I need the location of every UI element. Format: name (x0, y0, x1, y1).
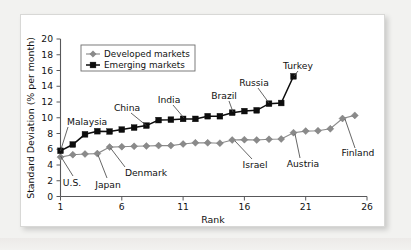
annotation-israel: Israel (242, 159, 267, 170)
dev-marker-4 (94, 150, 101, 157)
annotation-russia: Russia (239, 77, 269, 88)
y-axis-tick-labels: 0 2 4 6 8 10 12 14 16 18 20 (41, 33, 53, 202)
legend-label-emerging: Emerging markets (104, 60, 185, 70)
square-marker-icon (90, 62, 96, 68)
annotation-malaysia: Malaysia (67, 116, 107, 127)
annotation-denmark: Denmark (125, 167, 168, 178)
leader-denmark (111, 148, 126, 167)
page-shadow-strip (0, 238, 411, 250)
dev-marker-17 (253, 137, 260, 144)
dev-marker-10 (167, 142, 174, 149)
y-tick-label-8: 8 (47, 128, 53, 139)
emg-marker-3 (82, 131, 88, 137)
y-tick-label-10: 10 (41, 112, 53, 123)
dev-marker-2 (69, 151, 76, 158)
dev-marker-11 (180, 141, 187, 148)
emg-marker-10 (168, 117, 174, 123)
y-tick-label-18: 18 (41, 49, 53, 60)
y-tick-label-0: 0 (47, 191, 53, 202)
leader-china (131, 113, 146, 126)
dev-marker-8 (143, 143, 150, 150)
emg-marker-5 (107, 129, 113, 135)
annotation-japan: Japan (94, 179, 121, 190)
chart-legend: Developed markets Emerging markets (81, 45, 195, 71)
x-tick-label-11: 11 (177, 201, 189, 212)
emg-marker-9 (156, 117, 162, 123)
leader-russia (258, 88, 269, 103)
annotation-labels: Malaysia U.S. Japan Denmark China India … (63, 60, 375, 190)
dev-marker-6 (118, 143, 125, 150)
dev-marker-9 (155, 142, 162, 149)
emg-marker-14 (217, 113, 223, 119)
dev-marker-21 (302, 128, 309, 135)
y-tick-label-6: 6 (47, 143, 53, 154)
emg-marker-18 (266, 101, 272, 107)
dev-marker-13 (204, 139, 211, 146)
emg-marker-6 (119, 127, 125, 133)
y-axis-ticks (57, 39, 61, 197)
annotation-finland: Finland (342, 147, 375, 158)
emg-marker-4 (94, 128, 100, 134)
emg-marker-2 (70, 142, 76, 148)
emg-marker-16 (242, 108, 248, 114)
y-tick-label-16: 16 (41, 65, 53, 76)
standard-deviation-vs-rank-chart: 0 2 4 6 8 10 12 14 16 18 20 1 6 11 16 21 (21, 15, 384, 226)
annotation-china: China (114, 102, 140, 113)
x-tick-label-21: 21 (300, 201, 312, 212)
dev-marker-3 (82, 151, 89, 158)
y-tick-label-14: 14 (41, 80, 53, 91)
leader-india (173, 105, 184, 118)
dev-marker-22 (315, 127, 322, 134)
legend-label-developed: Developed markets (104, 49, 190, 59)
dev-marker-20 (290, 129, 297, 136)
emg-marker-19 (278, 100, 284, 106)
x-tick-label-6: 6 (119, 201, 125, 212)
x-axis-tick-labels: 1 6 11 16 21 26 (58, 201, 373, 212)
x-tick-label-16: 16 (239, 201, 251, 212)
x-axis-ticks (61, 197, 368, 201)
dev-marker-25 (351, 112, 358, 119)
dev-marker-18 (266, 136, 273, 143)
dev-marker-7 (131, 143, 138, 150)
leader-austria (295, 134, 300, 158)
annotation-brazil: Brazil (211, 90, 237, 101)
x-axis-title: Rank (201, 214, 225, 225)
leader-israel (235, 141, 252, 159)
emg-marker-12 (193, 116, 199, 122)
y-tick-label-2: 2 (47, 175, 53, 186)
dev-marker-15 (229, 137, 236, 144)
y-tick-label-20: 20 (41, 33, 53, 44)
x-tick-label-1: 1 (58, 201, 64, 212)
emg-marker-7 (131, 125, 137, 131)
annotation-us: U.S. (63, 177, 81, 188)
leader-finland (345, 119, 355, 148)
leader-us (61, 156, 74, 176)
annotation-turkey: Turkey (282, 60, 313, 71)
y-axis-title: Standard Deviation (% per month) (25, 37, 36, 199)
emg-marker-17 (254, 107, 260, 113)
y-tick-label-12: 12 (41, 96, 53, 107)
emg-marker-13 (205, 113, 211, 119)
leader-japan (98, 155, 107, 178)
dev-marker-19 (278, 136, 285, 143)
dev-marker-16 (241, 136, 248, 143)
x-tick-label-26: 26 (361, 201, 373, 212)
annotation-austria: Austria (287, 158, 319, 169)
y-tick-label-4: 4 (47, 159, 53, 170)
dev-marker-14 (216, 140, 223, 147)
chart-figure-panel: 0 2 4 6 8 10 12 14 16 18 20 1 6 11 16 21 (20, 14, 385, 227)
annotation-india: India (158, 94, 181, 105)
dev-marker-12 (192, 139, 199, 146)
